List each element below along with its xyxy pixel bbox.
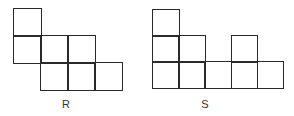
grid-square <box>204 61 232 89</box>
grid-square <box>40 62 69 91</box>
grid-square <box>152 35 180 63</box>
grid-square <box>152 9 180 37</box>
grid-square <box>13 35 42 64</box>
grid-square <box>40 35 69 64</box>
grid-square <box>152 61 180 89</box>
figure-s-label: S <box>201 98 208 110</box>
grid-square <box>231 35 259 63</box>
grid-square <box>94 62 123 91</box>
grid-square <box>257 61 285 89</box>
grid-square <box>231 61 259 89</box>
figure-r-label: R <box>62 98 70 110</box>
grid-square <box>13 8 42 37</box>
grid-square <box>67 35 96 64</box>
grid-square <box>178 61 206 89</box>
grid-square <box>178 35 206 63</box>
grid-square <box>67 62 96 91</box>
